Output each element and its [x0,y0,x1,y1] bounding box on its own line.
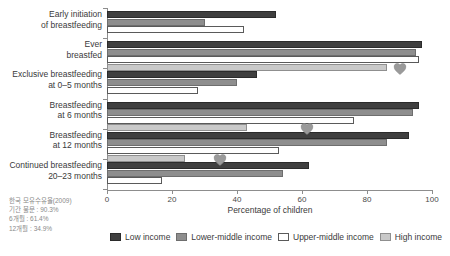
category-label-line: of breastfeeding [2,20,102,31]
legend-swatch-icon [278,233,289,241]
x-tick [107,190,108,194]
bar-uppermid [107,177,162,184]
x-axis-line [107,190,433,191]
legend-label: High income [395,232,442,242]
category-label-line: Exclusive breastfeeding [2,69,102,80]
legend-item-uppermid[interactable]: Upper-middle income [278,232,374,242]
category-label: Exclusive breastfeedingat 0–5 months [2,69,102,90]
legend-item-low[interactable]: Low income [110,232,170,242]
category-label-line: 20–23 months [2,171,102,182]
category-tick [103,38,107,39]
category-label: Continued breastfeeding20–23 months [2,160,102,181]
category-label: Everbreastfed [2,39,102,60]
bar-high [107,64,387,71]
bar-high [107,124,247,131]
category-label-line: Breastfeeding [2,100,102,111]
bar-low [107,41,422,48]
bar-uppermid [107,87,198,94]
category-label: Breastfeedingat 6 months [2,100,102,121]
category-tick [103,8,107,9]
annotation-line: 12개월 : 34.9% [9,224,72,233]
bar-lowermid [107,109,413,116]
bar-uppermid [107,26,244,33]
x-tick-label: 0 [105,195,109,204]
korea-rate-annotation: 한국 모유수유율(2009)기간 불문 : 90.3%6개월 : 61.4%12… [9,196,72,233]
category-label-line: Continued breastfeeding [2,160,102,171]
legend-label: Upper-middle income [293,232,374,242]
bar-uppermid [107,56,419,63]
bar-lowermid [107,19,205,26]
category-label: Breastfeedingat 12 months [2,130,102,151]
category-label-line: Early initiation [2,9,102,20]
x-tick-label: 20 [168,195,177,204]
annotation-line: 한국 모유수유율(2009) [9,196,72,205]
x-tick [302,190,303,194]
x-tick-label: 100 [425,195,438,204]
x-tick-label: 80 [363,195,372,204]
legend-item-lowermid[interactable]: Lower-middle income [176,232,272,242]
heart-marker-icon [214,152,227,164]
legend-swatch-icon [110,233,121,241]
bar-lowermid [107,170,283,177]
x-axis-title: Percentage of children [107,205,433,215]
category-label-line: Breastfeeding [2,130,102,141]
x-tick-label: 60 [298,195,307,204]
heart-marker-icon [394,61,407,73]
category-label-line: Ever [2,39,102,50]
bar-lowermid [107,49,416,56]
category-label: Early initiationof breastfeeding [2,9,102,30]
bar-high [107,155,185,162]
x-tick [237,190,238,194]
x-tick [432,190,433,194]
heart-marker-icon [300,121,313,133]
bar-low [107,132,409,139]
legend-item-high[interactable]: High income [380,232,442,242]
bar-low [107,102,419,109]
category-label-line: at 6 months [2,110,102,121]
bar-lowermid [107,79,237,86]
bar-lowermid [107,139,387,146]
bar-low [107,11,276,18]
category-label-line: at 12 months [2,140,102,151]
legend-label: Low income [125,232,170,242]
bar-low [107,71,257,78]
bar-uppermid [107,117,354,124]
x-tick-label: 40 [233,195,242,204]
bar-uppermid [107,147,279,154]
annotation-line: 기간 불문 : 90.3% [9,205,72,214]
breastfeeding-bar-chart: Early initiationof breastfeedingEverbrea… [0,0,450,256]
category-label-line: at 0–5 months [2,80,102,91]
legend-label: Lower-middle income [191,232,272,242]
annotation-line: 6개월 : 61.4% [9,214,72,223]
chart-legend: Low incomeLower-middle incomeUpper-middl… [110,232,442,242]
x-tick [367,190,368,194]
legend-swatch-icon [176,233,187,241]
x-tick [172,190,173,194]
category-label-line: breastfed [2,50,102,61]
legend-swatch-icon [380,233,391,241]
category-tick [103,99,107,100]
bar-low [107,162,309,169]
